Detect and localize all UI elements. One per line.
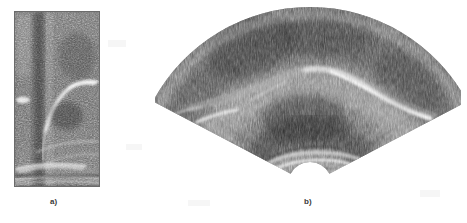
scan-artifact [108, 40, 126, 47]
panel-a-ultrasound-image [14, 11, 100, 187]
figure-root: a) [0, 0, 467, 223]
panel-b-caption: b) [304, 197, 312, 206]
sector-scan-region [155, 4, 461, 190]
panel-a-caption: a) [50, 197, 57, 206]
scan-artifact [126, 144, 142, 150]
scan-artifact [188, 200, 210, 206]
panel-b-ultrasound-image [155, 4, 461, 190]
scan-artifact [420, 190, 440, 197]
